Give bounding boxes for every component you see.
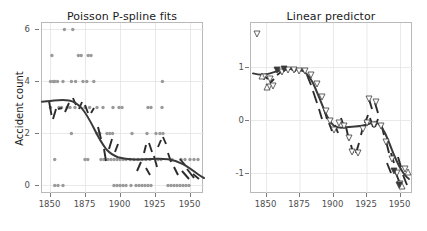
left-x-tickmark	[120, 193, 121, 197]
right-x-tick-1850: 1850	[251, 199, 280, 209]
left-x-tick-1850: 1850	[35, 199, 64, 209]
right-x-tickmark	[400, 193, 401, 197]
left-plot-canvas	[42, 23, 204, 194]
left-y-tickmark	[35, 29, 39, 30]
left-x-tickmark	[85, 193, 86, 197]
left-y-tick-0: 0	[14, 180, 30, 190]
left-x-tick-1875: 1875	[70, 199, 99, 209]
right-y-tickmark	[245, 120, 249, 121]
left-bootstrap-dashes	[49, 98, 199, 179]
right-y-tick-0: 0	[228, 115, 244, 125]
left-y-tickmark	[35, 185, 39, 186]
left-y-tickmark	[35, 133, 39, 134]
right-x-tickmark	[266, 193, 267, 197]
right-x-tickmark	[333, 193, 334, 197]
left-plot-frame	[41, 22, 203, 193]
left-y-tick-4: 4	[14, 76, 30, 86]
left-x-tick-1950: 1950	[175, 199, 204, 209]
left-y-axis-label: Accident count	[14, 59, 25, 159]
left-x-tickmark	[50, 193, 51, 197]
left-x-tick-1900: 1900	[105, 199, 134, 209]
left-x-tickmark	[155, 193, 156, 197]
left-x-tick-1925: 1925	[140, 199, 169, 209]
left-y-tickmark	[35, 81, 39, 82]
figure-root: Poisson P-spline fits Accident count 6 4…	[0, 0, 427, 231]
right-x-tick-1950: 1950	[385, 199, 414, 209]
right-x-tick-1925: 1925	[352, 199, 381, 209]
left-y-tick-2: 2	[14, 128, 30, 138]
right-y-tickmark	[245, 67, 249, 68]
right-observed-triangles	[250, 22, 412, 193]
right-y-tickmark	[245, 173, 249, 174]
right-x-tickmark	[366, 193, 367, 197]
left-fit-curve	[42, 100, 204, 178]
left-y-tick-6: 6	[14, 24, 30, 34]
left-x-tickmark	[190, 193, 191, 197]
right-y-tick-1: 1	[228, 62, 244, 72]
right-x-tickmark	[299, 193, 300, 197]
right-y-tick-neg1: -1	[226, 168, 244, 178]
left-observed-points	[49, 28, 200, 187]
right-x-tick-1900: 1900	[318, 199, 347, 209]
right-x-tick-1875: 1875	[285, 199, 314, 209]
